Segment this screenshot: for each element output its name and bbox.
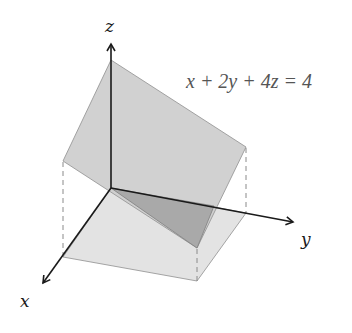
plane-diagram: z y x x + 2y + 4z = 4 xyxy=(0,0,352,333)
plane-equation: x + 2y + 4z = 4 xyxy=(185,70,312,93)
z-axis-label: z xyxy=(104,16,115,36)
y-axis-label: y xyxy=(300,229,311,249)
x-axis-label: x xyxy=(20,291,30,311)
